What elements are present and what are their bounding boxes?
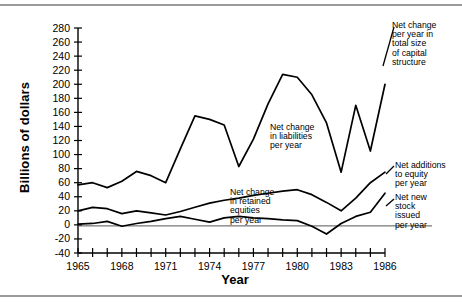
y-tick-label: 220 <box>40 65 70 75</box>
y-tick-label: 240 <box>40 51 70 61</box>
annotation-capital-structure: Net change per year in total size of cap… <box>392 21 460 67</box>
x-tick-label: 1968 <box>102 261 142 272</box>
x-tick-label: 1965 <box>58 261 98 272</box>
leader-new-stock <box>386 199 394 206</box>
leader-additions-equity <box>386 166 394 174</box>
annotation-retained-equities: Net change in retained equities per year <box>230 188 298 225</box>
x-tick-label: 1977 <box>233 261 273 272</box>
y-tick-label: 280 <box>40 23 70 33</box>
figure-container: Billions of dollars Year 280260240220200… <box>0 0 462 307</box>
y-tick-label: 200 <box>40 79 70 89</box>
y-tick-label: 160 <box>40 107 70 117</box>
x-tick-label: 1980 <box>277 261 317 272</box>
y-tick-label: -20 <box>40 233 70 243</box>
y-tick-label: 40 <box>40 191 70 201</box>
y-tick-label: 20 <box>40 205 70 215</box>
annotation-new-stock: Net new stock issued per year <box>395 193 461 230</box>
x-tick-label: 1974 <box>190 261 230 272</box>
y-tick-label: -40 <box>40 248 70 258</box>
y-tick-label: 0 <box>40 219 70 229</box>
y-tick-label: 140 <box>40 121 70 131</box>
y-tick-label: 260 <box>40 37 70 47</box>
y-tick-label: 180 <box>40 93 70 103</box>
y-tick-label: 120 <box>40 135 70 145</box>
annotation-liabilities: Net change in liabilities per year <box>270 123 340 151</box>
x-tick-label: 1983 <box>321 261 361 272</box>
y-tick-label: 60 <box>40 177 70 187</box>
x-tick-label: 1986 <box>365 261 405 272</box>
y-tick-label: 100 <box>40 149 70 159</box>
y-tick-label: 80 <box>40 163 70 173</box>
annotation-additions-equity: Net additions to equity per year <box>395 161 461 189</box>
x-tick-label: 1971 <box>146 261 186 272</box>
